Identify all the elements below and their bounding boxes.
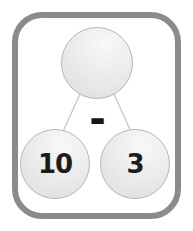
whole-circle xyxy=(61,27,133,99)
number-bond-diagram: - 10 3 xyxy=(0,0,193,231)
connector-line-right xyxy=(114,94,132,134)
part-value-right: 3 xyxy=(126,151,143,177)
part-circle-right: 3 xyxy=(100,129,170,199)
part-value-left: 10 xyxy=(38,151,72,177)
part-circle-left: 10 xyxy=(20,129,90,199)
operator-minus: - xyxy=(83,104,112,134)
connector-line-left xyxy=(62,94,80,134)
